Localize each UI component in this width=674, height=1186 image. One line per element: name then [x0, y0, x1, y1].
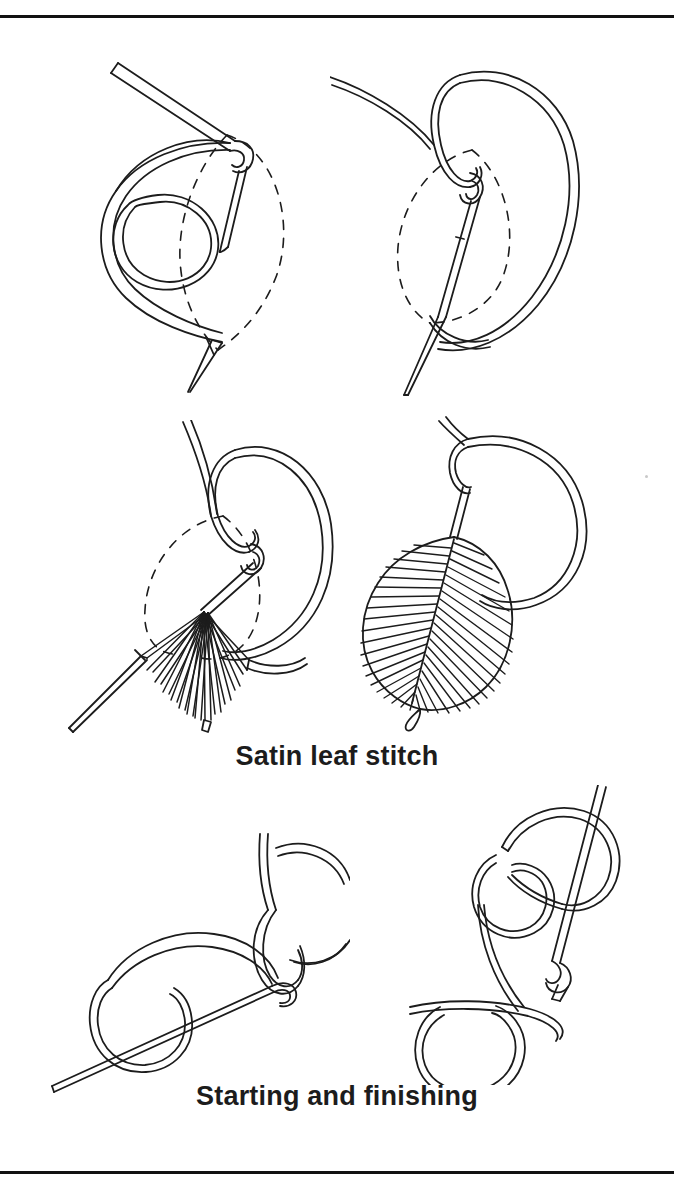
thread-loop-large [468, 436, 586, 609]
diagram-page: Satin leaf stitch [0, 0, 674, 1186]
thread-loop-large [438, 72, 579, 351]
thread-loop-upper [502, 808, 619, 911]
needle-eye-and-shank [201, 544, 264, 616]
dashed-leaf-outline [398, 150, 510, 323]
thread-descending-left [478, 905, 524, 1011]
thread-loop-small [449, 439, 471, 493]
caption-starting-and-finishing: Starting and finishing [0, 1081, 674, 1112]
thread-loop-upper-right [276, 844, 350, 965]
needle-tip-lower-left [69, 650, 147, 732]
thread-loop-bottom-circle [415, 1006, 525, 1085]
thread-loop-small [431, 75, 481, 187]
thread-tail-top [259, 834, 276, 910]
dashed-leaf-outline [180, 135, 284, 350]
thread-loop-large [221, 447, 333, 660]
figure-starting-finishing-right [400, 785, 650, 1085]
figure-satin-leaf-step-2 [330, 55, 600, 405]
central-vein [450, 487, 470, 539]
leaf-midrib [412, 539, 454, 703]
needle [52, 983, 296, 1092]
leaf-tip [406, 709, 421, 731]
top-rule [0, 15, 674, 18]
thread-coil-inner [113, 195, 218, 290]
thread-loop-lower-circle [90, 980, 192, 1072]
page-speck [645, 475, 648, 478]
figure-satin-leaf-step-1 [80, 55, 330, 395]
figure-satin-leaf-step-4 [350, 415, 620, 735]
thread-tail-upper-left [183, 420, 217, 516]
bottom-rule [0, 1171, 674, 1174]
stitch-fan-shadow [147, 613, 247, 720]
figure-starting-finishing-left [50, 820, 350, 1100]
needle-upper [111, 63, 235, 151]
caption-satin-leaf-stitch: Satin leaf stitch [0, 741, 674, 772]
needle-vertical [404, 173, 483, 395]
thread-right-span [247, 658, 307, 674]
thread-loop-arc-left [108, 933, 278, 988]
figure-satin-leaf-step-3 [55, 420, 345, 740]
needle-tip-lower [188, 337, 222, 392]
leaf-stitches-left [361, 545, 451, 710]
thread-loop-lower [410, 1001, 563, 1041]
thread-tail-upper-left [330, 77, 434, 149]
thread-loop-around-needle [254, 910, 305, 994]
needle-eye-and-shank [219, 141, 253, 252]
thread-upper-span [116, 140, 230, 191]
